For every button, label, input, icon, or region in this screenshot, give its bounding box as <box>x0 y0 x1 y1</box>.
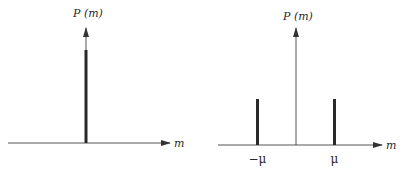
y-axis-label: P (m) <box>282 10 313 23</box>
tick-label: μ <box>331 152 339 166</box>
probability-diagram: P (m) m −μμ P (m) m <box>0 0 400 172</box>
panel-single: P (m) m <box>8 7 184 150</box>
x-axis-label: m <box>174 137 184 150</box>
x-axis-label: m <box>386 139 396 152</box>
tick-label: −μ <box>249 152 267 166</box>
panel-double: −μμ P (m) m <box>218 10 396 166</box>
y-axis-label: P (m) <box>72 7 103 20</box>
